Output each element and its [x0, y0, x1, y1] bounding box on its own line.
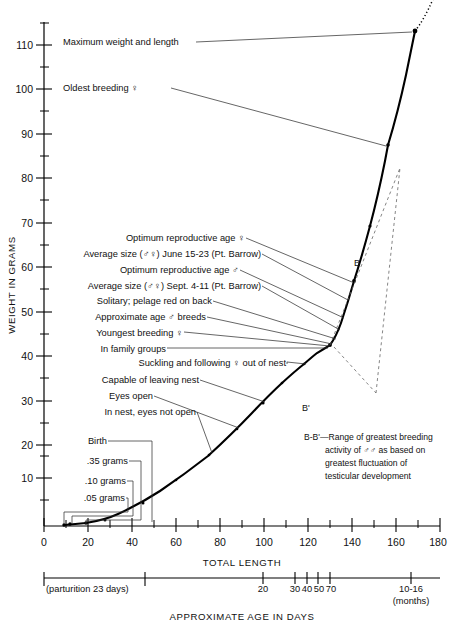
annotation-birth: Birth: [88, 436, 107, 446]
age-axis-months-note: (months): [393, 596, 430, 606]
age-tick-label-20: 20: [258, 584, 268, 594]
x-tick-label-180: 180: [429, 536, 447, 548]
y-tick-label-90: 90: [21, 128, 33, 140]
annotation-suckling: Suckling and following ♀ out of nest: [138, 358, 286, 368]
age-tick-label-10-16: 10-16: [399, 584, 423, 594]
data-point: [208, 454, 211, 457]
x-tick-label-0: 0: [41, 536, 47, 548]
annotation-avg-june: Average size (♂♀) June 15-23 (Pt. Barrow…: [83, 249, 261, 259]
annotation-maximum-weight: Maximum weight and length: [63, 37, 179, 47]
data-point: [175, 479, 178, 482]
age-axis-title: APPROXIMATE AGE IN DAYS: [169, 611, 314, 622]
age-axis-parturition-note: (parturition 23 days): [46, 584, 129, 594]
data-point-maximum: [413, 29, 418, 34]
y-tick-label-70: 70: [21, 217, 33, 229]
leader-avg-sept: [262, 286, 340, 330]
bb-caption-line-4: testicular development: [325, 471, 412, 481]
age-tick-label-70: 70: [326, 584, 336, 594]
annotation-labels: Maximum weight and length Oldest breedin…: [63, 37, 286, 503]
data-point: [142, 502, 145, 505]
y-tick-label-60: 60: [21, 261, 33, 273]
y-tick-label-100: 100: [15, 83, 33, 95]
growth-curve-extrapolation: [415, 0, 434, 31]
annotation-optimum-female: Optimum reproductive age ♀: [126, 233, 245, 243]
x-tick-label-80: 80: [214, 536, 226, 548]
x-tick-label-40: 40: [126, 536, 138, 548]
x-tick-label-100: 100: [255, 536, 273, 548]
y-axis-title: WEIGHT IN GRAMS: [6, 236, 17, 333]
leader-oldest-breeding: [171, 88, 386, 146]
annotation-35-grams: .35 grams: [87, 456, 129, 466]
annotation-leaving-nest: Capable of leaving nest: [102, 375, 200, 385]
bb-caption-line-2: activity of ♂♂ as based on: [325, 445, 426, 455]
annotation-optimum-male: Optimum reproductive age ♂: [120, 265, 239, 275]
y-tick-label-40: 40: [21, 350, 33, 362]
y-tick-label-20: 20: [21, 439, 33, 451]
growth-chart-figure: 110 100 90 80 70 60 50 40 30 20 10 WEIGH…: [0, 0, 469, 625]
leader-optimum-male: [240, 270, 344, 318]
y-tick-label-30: 30: [21, 395, 33, 407]
x-tick-label-20: 20: [82, 536, 94, 548]
annotation-05-grams: .05 grams: [84, 493, 126, 503]
leader-maximum-weight: [196, 32, 412, 42]
bprime-leader-dashed: [334, 347, 376, 393]
leader-optimum-female: [246, 238, 352, 282]
annotation-eyes-not-open: In nest, eyes not open: [105, 407, 197, 417]
annotation-family-groups: In family groups: [100, 344, 166, 354]
x-axis: 0 20 40 60 80 100 120 140 160 180 TOTAL …: [41, 518, 447, 568]
x-tick-label-160: 160: [387, 536, 405, 548]
b-prime-to-b-dashed: [330, 168, 400, 345]
b-label: B: [354, 258, 360, 268]
x-axis-title: TOTAL LENGTH: [203, 557, 281, 568]
bb-caption-line-3: greatest fluctuation of: [325, 458, 408, 468]
age-tick-label-50: 50: [314, 584, 324, 594]
data-point: [68, 522, 71, 525]
y-tick-label-110: 110: [16, 39, 33, 51]
chart-svg: 110 100 90 80 70 60 50 40 30 20 10 WEIGH…: [0, 0, 469, 625]
annotation-youngest-breeding: Youngest breeding ♀: [96, 328, 183, 338]
data-point-oldest-breeding: [386, 143, 390, 147]
x-tick-label-60: 60: [170, 536, 182, 548]
age-tick-label-30: 30: [290, 584, 300, 594]
x-tick-label-140: 140: [343, 536, 361, 548]
annotation-10-grams: .10 grams: [85, 476, 127, 486]
age-axis: (parturition 23 days) 20 30 40 50 70 10-…: [44, 572, 440, 622]
y-axis: 110 100 90 80 70 60 50 40 30 20 10 WEIGH…: [6, 22, 52, 526]
leader-suckling: [287, 362, 306, 364]
bb-caption-line-1: B-B'—Range of greatest breeding: [304, 432, 433, 442]
annotation-approx-male-breeds: Approximate age ♂ breeds: [95, 312, 206, 322]
leader-eyes-not-open: [197, 412, 212, 453]
bb-prime-caption: B-B'—Range of greatest breeding activity…: [304, 432, 433, 481]
annotation-solitary: Solitary; pelage red on back: [97, 296, 213, 306]
leader-solitary: [213, 301, 336, 339]
x-tick-label-120: 120: [299, 536, 317, 548]
leader-leaving-nest: [200, 380, 265, 402]
b-leader-dashed: [376, 168, 400, 393]
age-tick-label-40: 40: [302, 584, 312, 594]
annotation-oldest-breeding: Oldest breeding ♀: [63, 83, 138, 93]
b-prime-label: B': [302, 403, 310, 413]
y-tick-label-10: 10: [21, 472, 33, 484]
data-point: [281, 382, 284, 385]
annotation-eyes-open: Eyes open: [109, 391, 153, 401]
y-tick-label-80: 80: [21, 172, 33, 184]
annotation-avg-sept: Average size (♂♀) Sept. 4-11 (Pt. Barrow…: [88, 281, 261, 291]
data-point: [368, 224, 371, 227]
data-point: [236, 428, 239, 431]
y-tick-label-50: 50: [21, 306, 33, 318]
